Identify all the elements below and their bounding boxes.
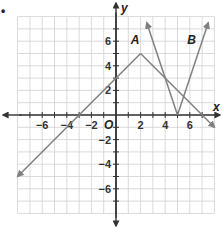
x-tick-label: −4 [61,119,74,131]
coordinate-plane: −6−4−2246642−2−4−6Oxy AB [0,0,222,229]
x-tick-label: 4 [162,119,169,131]
x-axis-label: x [212,100,221,114]
y-tick-label: −6 [98,183,111,195]
x-tick-label: 2 [138,119,144,131]
series-label-A: A [130,33,140,47]
origin-label: O [104,118,114,132]
x-tick-label: 6 [187,119,193,131]
x-tick-label: −2 [85,119,98,131]
y-tick-label: −4 [98,158,111,170]
y-axis-label: y [120,1,129,15]
y-tick-label: 6 [105,35,111,47]
y-tick-label: −2 [98,134,111,146]
y-tick-label: 4 [105,60,112,72]
x-tick-label: −6 [36,119,49,131]
series-label-B: B [187,33,196,47]
series-B-left-arm [147,23,178,115]
